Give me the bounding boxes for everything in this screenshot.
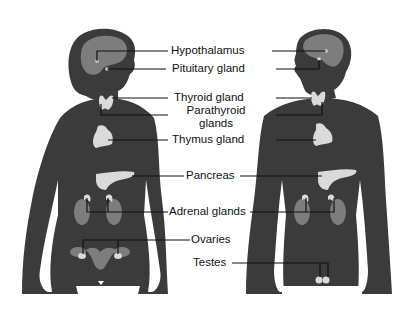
endocrine-diagram: Hypothalamus Pituitary gland Thyroid gla… — [0, 0, 412, 319]
label-hypothalamus: Hypothalamus — [171, 44, 245, 57]
male-testis-right — [323, 277, 330, 284]
male-testis-left — [316, 277, 323, 284]
label-thymus-gland: Thymus gland — [172, 133, 244, 146]
label-pituitary-gland: Pituitary gland — [172, 62, 245, 75]
label-testes: Testes — [193, 256, 226, 269]
label-thyroid-gland: Thyroid gland — [174, 91, 244, 104]
label-pancreas: Pancreas — [186, 169, 235, 182]
label-ovaries: Ovaries — [191, 233, 231, 246]
female-ovary-left — [78, 253, 86, 259]
label-adrenal-glands: Adrenal glands — [169, 205, 246, 218]
label-parathyroid-glands: Parathyroid glands — [176, 104, 256, 130]
